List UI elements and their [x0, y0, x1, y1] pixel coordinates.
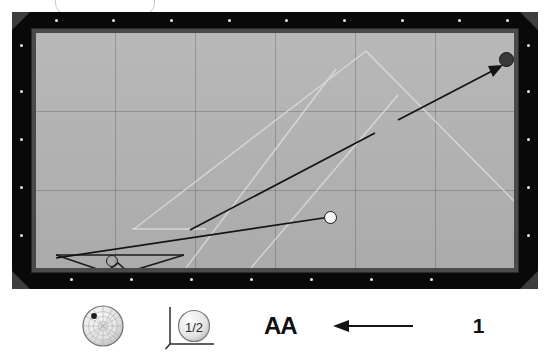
rail-corner-top-right — [520, 12, 538, 30]
diagram-root: 1/2 AA 1 — [0, 0, 550, 356]
diamond-top-4 — [228, 19, 231, 22]
shot-vector-overlay — [36, 33, 514, 268]
ghost-ball[interactable] — [106, 255, 118, 267]
diamond-top-8 — [458, 19, 461, 22]
rail-corner-top-left — [12, 12, 30, 30]
diamond-right-4 — [527, 186, 530, 189]
diamond-left-3 — [20, 138, 23, 141]
spin-ball-icon — [80, 303, 126, 349]
diamond-top-7 — [401, 19, 404, 22]
diamond-left-5 — [20, 234, 23, 237]
diamond-left-4 — [20, 186, 23, 189]
diamond-bottom-2 — [130, 278, 133, 281]
diamond-right-5 — [527, 234, 530, 237]
diamond-right-3 — [527, 138, 530, 141]
cue-stick-wedge — [56, 255, 184, 268]
cue-ball[interactable] — [324, 211, 337, 224]
diamond-bottom-5 — [310, 278, 313, 281]
diamond-bottom-6 — [370, 278, 373, 281]
tangent-line — [190, 133, 375, 230]
diamond-right-1 — [527, 44, 530, 47]
fraction-label: 1/2 — [185, 320, 203, 335]
arrow-direction-tool[interactable] — [331, 316, 415, 336]
spin-dot — [91, 313, 97, 319]
diamond-top-6 — [343, 19, 346, 22]
diamond-right-2 — [527, 90, 530, 93]
diamond-left-2 — [20, 90, 23, 93]
bottom-toolbar: 1/2 AA 1 — [0, 296, 550, 356]
diamond-top-2 — [112, 19, 115, 22]
cue-path-line — [56, 217, 330, 258]
arrow-left-icon — [331, 316, 415, 336]
diamond-top-3 — [170, 19, 173, 22]
table-felt[interactable] — [36, 33, 514, 268]
diamond-bottom-1 — [70, 278, 73, 281]
cut-angle-indicator[interactable]: 1/2 — [164, 301, 220, 351]
diamond-bottom-7 — [430, 278, 433, 281]
fraction-ball-icon: 1/2 — [164, 301, 220, 351]
diamond-top-9 — [506, 19, 509, 22]
object-ball[interactable] — [499, 52, 514, 67]
diamond-bottom-3 — [190, 278, 193, 281]
diamond-top-1 — [55, 19, 58, 22]
rail-corner-bottom-left — [12, 271, 30, 289]
diamond-bottom-4 — [250, 278, 253, 281]
english-spin-indicator[interactable] — [80, 303, 126, 349]
rail-corner-bottom-right — [520, 271, 538, 289]
diamond-left-1 — [20, 44, 23, 47]
diamond-top-5 — [285, 19, 288, 22]
pool-table[interactable] — [12, 12, 538, 289]
text-size-tool[interactable]: AA — [264, 312, 297, 340]
page-number[interactable]: 1 — [473, 314, 485, 338]
aim-arrow — [398, 65, 503, 120]
